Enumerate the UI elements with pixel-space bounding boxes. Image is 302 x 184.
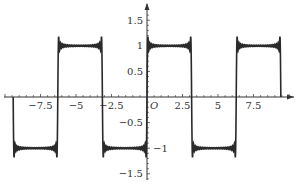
x-axis-arrow-icon	[287, 95, 294, 100]
y-tick-label: −1	[153, 143, 168, 154]
origin-label: O	[150, 100, 158, 111]
y-tick-label: 0.5	[127, 66, 143, 77]
y-tick-label: −1.5	[119, 168, 143, 179]
x-tick-label: −5	[69, 100, 84, 111]
x-tick-label: 2.5	[175, 100, 191, 111]
y-tick-label: 1.5	[127, 15, 143, 26]
y-tick-label: −0.5	[119, 117, 143, 128]
x-tick-label: −7.5	[28, 100, 52, 111]
y-tick-label: 1	[137, 40, 143, 51]
y-axis-arrow-icon	[145, 3, 150, 10]
square-wave-fourier-chart: −7.5−5−2.52.557.51.510.5−0.5−1−1.5O	[0, 0, 302, 184]
x-tick-label: 7.5	[246, 100, 262, 111]
x-tick-label: 5	[215, 100, 221, 111]
axes	[4, 3, 294, 180]
